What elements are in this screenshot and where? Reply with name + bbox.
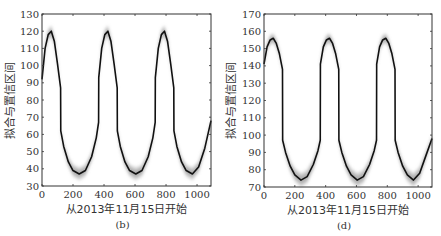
y-tick-label: 110 <box>20 43 39 54</box>
y-tick-label: 50 <box>26 146 39 157</box>
y-tick-label: 100 <box>242 130 261 141</box>
y-tick-label: 30 <box>26 181 39 192</box>
y-tick-label: 110 <box>242 112 261 123</box>
x-tick-label: 400 <box>316 190 335 201</box>
chart-b-svg: 30405060708090100110120130 0200400600800… <box>0 0 220 236</box>
y-tick-label: 120 <box>20 26 39 37</box>
y-tick-label: 150 <box>242 43 261 54</box>
chart-panel-d: 708090100110120130140150160170 020040060… <box>220 0 440 236</box>
x-tick-label: 600 <box>125 189 144 200</box>
y-tick-label: 90 <box>26 77 39 88</box>
line-b <box>42 31 211 174</box>
x-tick-label: 0 <box>261 190 267 201</box>
fit-line <box>42 31 211 174</box>
y-tick-label: 80 <box>26 95 39 106</box>
x-tick-label: 800 <box>378 190 397 201</box>
y-tick-label: 70 <box>26 112 39 123</box>
panel-label-d: (d) <box>337 220 351 231</box>
x-axis-title-d: 从2013年11月15日开始 <box>287 203 409 217</box>
x-tick-label: 400 <box>94 189 113 200</box>
y-tick-label: 160 <box>242 26 261 37</box>
y-tick-label: 140 <box>242 60 261 71</box>
x-axis-title-b: 从2013年11月15日开始 <box>66 202 188 216</box>
y-tick-label: 70 <box>248 182 261 193</box>
y-tick-label: 130 <box>20 9 39 20</box>
y-tick-label: 130 <box>242 78 261 89</box>
y-tick-label: 40 <box>26 163 39 174</box>
x-tick-label: 600 <box>347 190 366 201</box>
x-tick-label: 200 <box>63 189 82 200</box>
x-tick-label: 0 <box>39 189 45 200</box>
y-tick-label: 100 <box>20 60 39 71</box>
x-tick-label: 800 <box>156 189 175 200</box>
x-tick-label: 1000 <box>405 190 430 201</box>
y-axis-title-d: 拟合与置信区间 <box>224 62 238 139</box>
panel-label-b: (b) <box>115 219 129 230</box>
chart-d-svg: 708090100110120130140150160170 020040060… <box>220 0 441 236</box>
x-tick-label: 1000 <box>184 189 209 200</box>
chart-panel-b: 30405060708090100110120130 0200400600800… <box>0 0 220 236</box>
y-axis-title-b: 拟合与置信区间 <box>3 62 17 139</box>
y-tick-label: 170 <box>242 9 261 20</box>
y-tick-label: 60 <box>26 129 39 140</box>
y-tick-label: 80 <box>248 164 261 175</box>
y-tick-label: 90 <box>248 147 261 158</box>
x-tick-label: 200 <box>285 190 304 201</box>
y-tick-label: 120 <box>242 95 261 106</box>
